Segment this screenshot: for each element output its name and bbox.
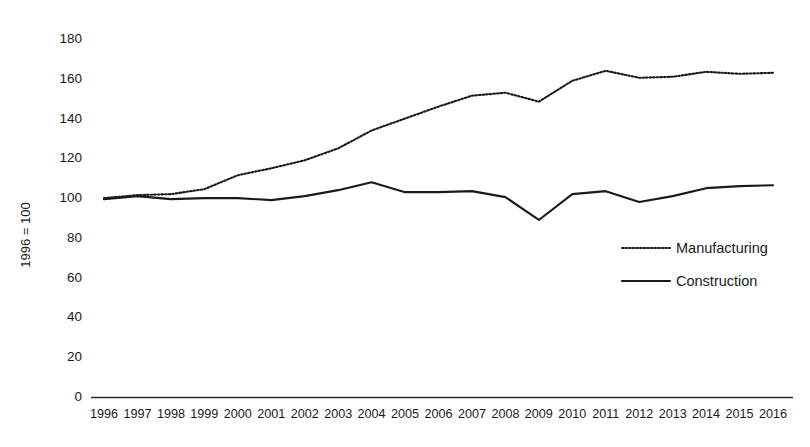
y-tick-label-80: 80	[67, 230, 82, 245]
y-tick-label-60: 60	[67, 270, 82, 285]
x-tick-label-2010: 2010	[558, 407, 586, 421]
series-line-manufacturing	[104, 71, 773, 198]
x-tick-label-2008: 2008	[491, 407, 519, 421]
x-tick-label-2004: 2004	[358, 407, 386, 421]
x-tick-label-2011: 2011	[592, 407, 619, 421]
x-tick-label-2012: 2012	[625, 407, 653, 421]
y-tick-label-20: 20	[67, 349, 82, 364]
y-axis-tick-labels: 020406080100120140160180	[59, 31, 82, 404]
y-axis-title: 1996 = 100	[18, 202, 33, 267]
x-tick-label-2001: 2001	[257, 407, 285, 421]
y-tick-label-100: 100	[59, 190, 82, 205]
x-tick-label-2009: 2009	[525, 407, 553, 421]
x-tick-label-2007: 2007	[458, 407, 486, 421]
y-tick-label-0: 0	[74, 389, 82, 404]
x-tick-label-2003: 2003	[324, 407, 352, 421]
y-tick-label-160: 160	[59, 71, 82, 86]
x-tick-label-2013: 2013	[659, 407, 687, 421]
series-line-construction	[104, 182, 773, 220]
x-tick-label-2006: 2006	[424, 407, 452, 421]
y-tick-label-140: 140	[59, 111, 82, 126]
x-tick-label-2014: 2014	[692, 407, 720, 421]
y-tick-label-180: 180	[59, 31, 82, 46]
legend-label-construction: Construction	[676, 273, 757, 289]
x-tick-label-2015: 2015	[726, 407, 754, 421]
x-tick-label-1996: 1996	[90, 407, 118, 421]
x-tick-label-1999: 1999	[190, 407, 218, 421]
y-tick-label-40: 40	[67, 309, 82, 324]
line-chart: 020406080100120140160180 199619971998199…	[0, 0, 810, 447]
x-axis-tick-labels: 1996199719981999200020012002200320042005…	[90, 407, 787, 421]
chart-legend: ManufacturingConstruction	[622, 240, 768, 289]
chart-container: 020406080100120140160180 199619971998199…	[0, 0, 810, 447]
y-tick-label-120: 120	[59, 150, 82, 165]
x-tick-label-2002: 2002	[291, 407, 319, 421]
x-tick-label-2000: 2000	[224, 407, 252, 421]
x-tick-label-1998: 1998	[157, 407, 185, 421]
x-tick-label-1997: 1997	[123, 407, 151, 421]
legend-label-manufacturing: Manufacturing	[676, 240, 768, 256]
x-tick-label-2005: 2005	[391, 407, 419, 421]
x-tick-label-2016: 2016	[759, 407, 787, 421]
